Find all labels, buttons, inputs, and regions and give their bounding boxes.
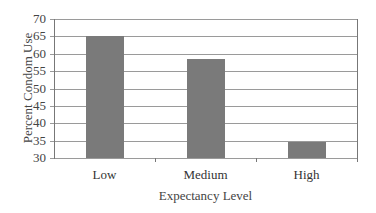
gridline [50,19,357,20]
y-axis-label: Percent Condom Use [20,8,36,168]
bar-chart: 303540455055606570 LowMediumHigh Percent… [0,0,376,213]
bar-low [86,36,124,158]
x-axis-label: Expectancy Level [54,188,357,204]
x-tick-mark [155,158,156,162]
x-tick-label: Medium [155,167,256,183]
y-axis-line [54,19,55,159]
bar-medium [187,59,225,158]
plot-right-border [357,19,358,162]
gridline [50,158,357,159]
x-tick-label: High [256,167,357,183]
bar-high [288,142,326,158]
x-tick-mark [256,158,257,162]
x-tick-label: Low [54,167,155,183]
